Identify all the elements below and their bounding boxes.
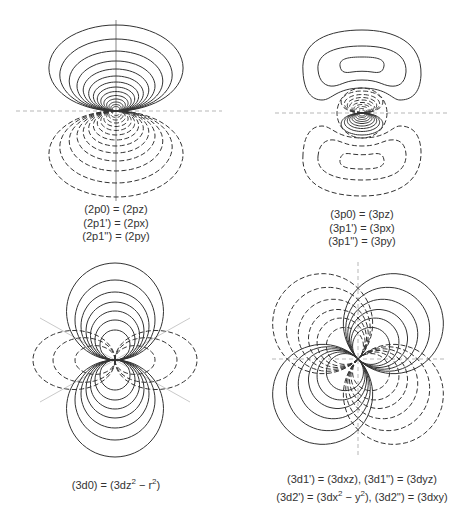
orbital-contour-diagrams — [0, 0, 468, 509]
label-2p: (2p0) = (2pz) (2p1') = (2px) (2p1'') = (… — [82, 203, 149, 244]
label-3p-line1: (3p0) = (3pz) — [328, 208, 395, 222]
panel-3d-cloverleaf — [272, 262, 446, 458]
label-text: − r — [136, 479, 152, 491]
label-text: ), (3d2'') = (3dxy) — [365, 490, 448, 502]
label-2p-line3: (2p1'') = (2py) — [82, 230, 149, 244]
label-text: ) — [157, 479, 161, 491]
label-3p-line3: (3p1'') = (3py) — [328, 235, 395, 249]
label-3d-line2: (3d2') = (3dx2 − y2), (3d2'') = (3dxy) — [276, 487, 447, 504]
label-3p: (3p0) = (3pz) (3p1') = (3px) (3p1'') = (… — [328, 208, 395, 249]
label-2p-line1: (2p0) = (2pz) — [82, 203, 149, 217]
label-text: (3d2') = (3dx — [276, 490, 338, 502]
label-2p-line2: (2p1') = (2px) — [82, 217, 149, 231]
label-3d0: (3d0) = (3dz2 − r2) — [72, 475, 160, 492]
label-3d-line1: (3d1') = (3dxz), (3d1'') = (3dyz) — [276, 473, 447, 487]
panel-3p — [275, 30, 448, 196]
label-text: (3d0) = (3dz — [72, 479, 132, 491]
label-text: − y — [342, 490, 360, 502]
label-3d-cloverleaf: (3d1') = (3dxz), (3d1'') = (3dyz) (3d2')… — [276, 473, 447, 504]
panel-3d0 — [33, 263, 197, 457]
label-3p-line2: (3p1') = (3px) — [328, 222, 395, 236]
panel-2p — [16, 20, 222, 201]
